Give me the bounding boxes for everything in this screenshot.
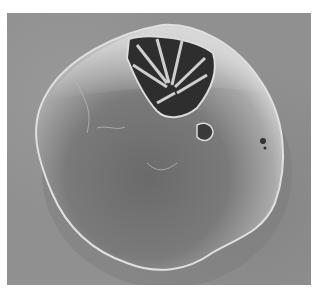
surface-pore bbox=[264, 147, 267, 150]
micrograph-frame bbox=[7, 13, 311, 285]
particle-illustration bbox=[7, 13, 311, 285]
surface-pit bbox=[197, 123, 213, 140]
surface-pore bbox=[260, 138, 266, 144]
